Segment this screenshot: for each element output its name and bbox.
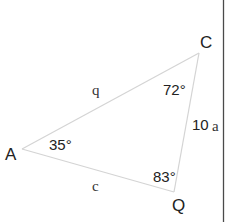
angle-label-q: 83° xyxy=(153,168,176,185)
vertex-label-c: C xyxy=(200,33,212,52)
angle-label-c: 72° xyxy=(163,81,186,98)
triangle-diagram: A C Q 35° 72° 83° 10 q c a xyxy=(0,0,231,222)
angle-label-a: 35° xyxy=(49,136,72,153)
side-length-cq: 10 xyxy=(192,116,209,133)
vertex-label-a: A xyxy=(5,145,17,164)
side-label-q: q xyxy=(92,82,100,98)
vertex-label-q: Q xyxy=(172,196,185,215)
side-ac xyxy=(22,53,199,149)
side-label-a: a xyxy=(212,118,219,134)
side-label-c: c xyxy=(92,178,99,194)
